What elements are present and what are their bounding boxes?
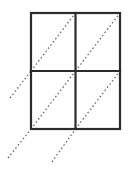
grid-diagram-svg [0, 0, 132, 170]
figure-container [0, 0, 132, 170]
